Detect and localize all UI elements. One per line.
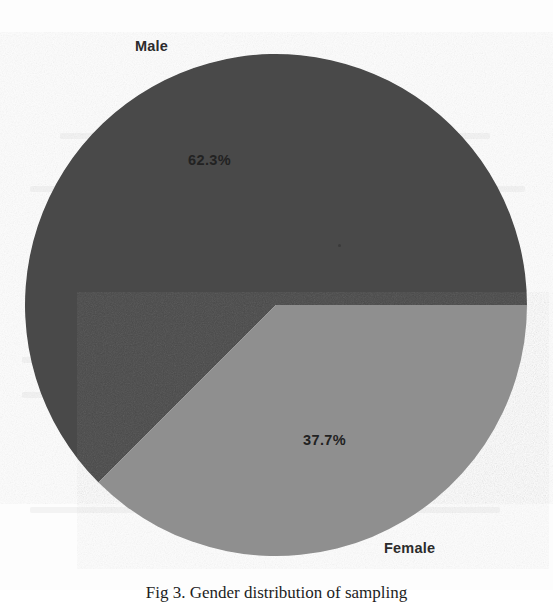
pie-value-male: 62.3%	[188, 152, 231, 168]
figure-caption: Fig 3. Gender distribution of sampling	[0, 583, 553, 603]
pie-label-male: Male	[135, 38, 168, 54]
pie-label-female: Female	[384, 540, 435, 556]
scan-speck	[338, 244, 341, 247]
pie-value-female: 37.7%	[303, 432, 346, 448]
